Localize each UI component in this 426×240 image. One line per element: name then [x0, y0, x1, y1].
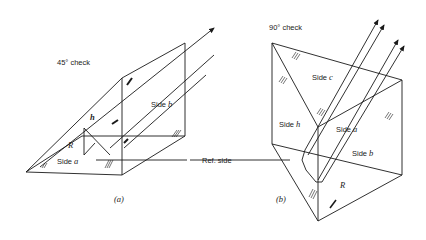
label-side-b-a: Side b: [151, 100, 172, 109]
caption-b: (b): [276, 195, 286, 204]
label-r-b: R: [340, 181, 345, 190]
label-h-a: h: [90, 113, 95, 122]
label-side-b-b: Side b: [352, 149, 373, 158]
label-r-a: R: [68, 141, 73, 150]
prism-a: [26, 43, 185, 175]
label-ref-side: Ref. side: [202, 157, 232, 165]
label-side-a-a: Side a: [57, 157, 78, 166]
label-side-h: Side h: [279, 120, 300, 129]
caption-a: (a): [114, 195, 124, 204]
label-side-c: Side c: [312, 73, 333, 82]
rays-a: [40, 28, 214, 167]
prism-diagram: [0, 0, 426, 240]
label-side-a-b: Side a: [336, 125, 357, 134]
title-90-check: 90° check: [269, 24, 302, 32]
title-45-check: 45° check: [57, 59, 90, 67]
